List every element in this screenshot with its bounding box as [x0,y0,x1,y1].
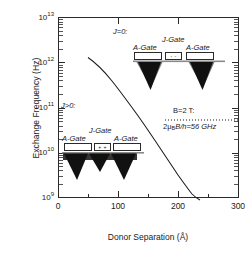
zeeman-rest: B/h=56 GHz [175,122,216,131]
annotation-field-text: B=2 T: [173,106,194,115]
annotation-j-pos-text: J>0: [61,101,75,110]
inset-bottom-a-gate-left-label: A-Gate [62,134,86,143]
annotation-j-equals-zero: J=0: [113,27,127,36]
inset-top-j-gate-sign: - - [170,53,176,59]
inset-top-j-gate-label: J-Gate [162,35,185,44]
annotation-zeeman-splitting: 2μBB/h=56 GHz [163,122,216,131]
inset-bottom-j-gate-label: J-Gate [89,126,112,135]
inset-top-a-gate-right-label: A-Gate [186,43,210,52]
annotation-j-zero-text: J=0: [113,27,127,36]
inset-bottom-a-gate-right-box [113,143,141,151]
inset-top-wavefunctions [133,61,225,91]
inset-bottom-a-gate-right-label: A-Gate [114,134,138,143]
inset-bottom-j-gate-sign: + + [98,144,107,150]
inset-bottom-j-gate-text: J-Gate [89,126,112,135]
inset-bottom-a-gate-right-text: A-Gate [114,134,138,143]
inset-top-j-gate-text: J-Gate [162,35,185,44]
inset-bottom-wavefunctions [62,152,144,180]
inset-top-a-gate-left-text: A-Gate [133,43,157,52]
inset-top-a-gate-left-label: A-Gate [133,43,157,52]
inset-bottom-j-gate-box: + + [94,143,111,151]
inset-top-a-gate-right-text: A-Gate [186,43,210,52]
figure-exchange-frequency: Exchange Frequency (Hz) Donor Separation… [0,0,250,255]
inset-top-a-gate-right-box [186,52,214,60]
inset-top-j-gate-box: - - [165,52,182,60]
inset-bottom-a-gate-left-text: A-Gate [62,134,86,143]
inset-top-a-gate-left-box [134,52,162,60]
inset-bottom-a-gate-left-box [64,143,92,151]
annotation-magnetic-field: B=2 T: [173,106,194,115]
annotation-j-greater-zero: J>0: [61,101,75,110]
